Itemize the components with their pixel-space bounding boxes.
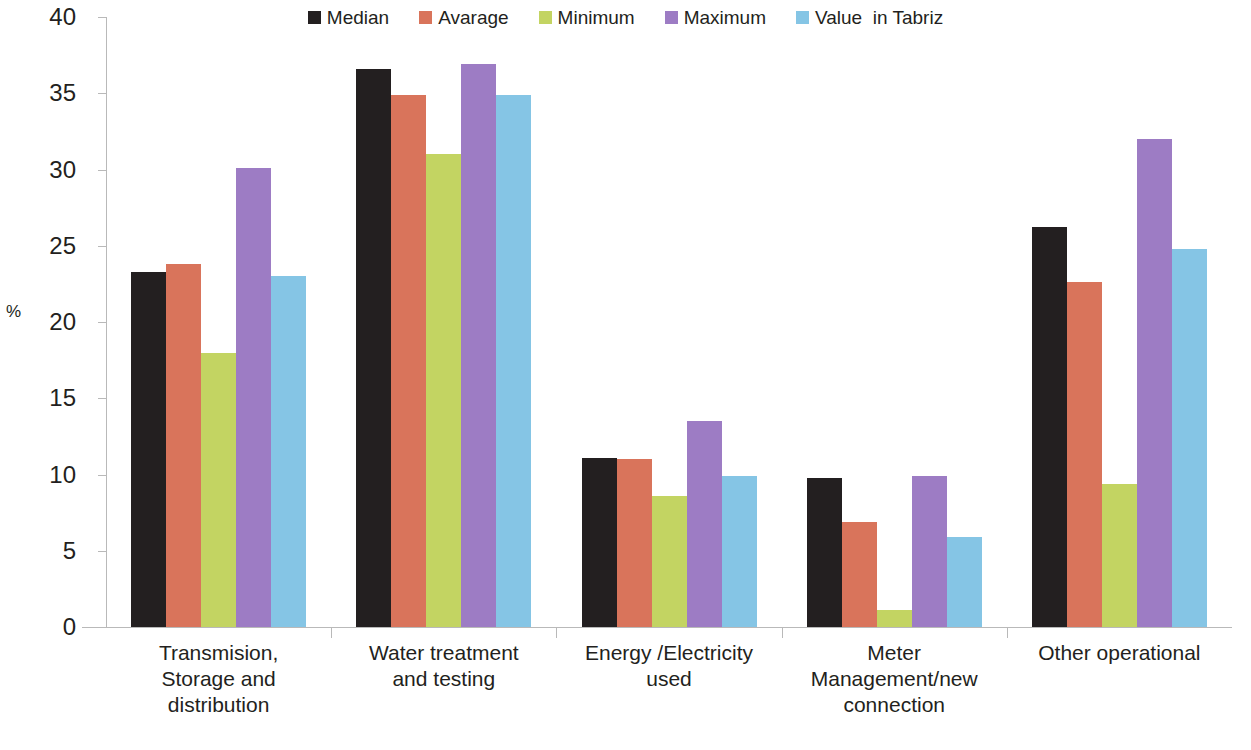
category-label-line: used bbox=[560, 666, 777, 692]
bar-slot bbox=[131, 17, 166, 627]
bar[interactable] bbox=[947, 537, 982, 627]
y-axis-tick bbox=[98, 322, 107, 323]
bar-slot bbox=[582, 17, 617, 627]
bar[interactable] bbox=[496, 95, 531, 627]
bar-group bbox=[782, 17, 1007, 627]
category-label-line: Water treatment bbox=[335, 640, 552, 666]
y-axis-tick bbox=[98, 170, 107, 171]
y-axis-tick bbox=[98, 17, 107, 18]
bar-slot bbox=[1102, 17, 1137, 627]
category-label-line: Other operational bbox=[1011, 640, 1228, 666]
bar-slot bbox=[1032, 17, 1067, 627]
y-axis-tick-label: 5 bbox=[16, 539, 76, 563]
bar-slot bbox=[426, 17, 461, 627]
bar-slot bbox=[1172, 17, 1207, 627]
bar-slot bbox=[236, 17, 271, 627]
bar[interactable] bbox=[1032, 227, 1067, 627]
x-axis-category-label: Energy /Electricityused bbox=[556, 640, 781, 718]
y-axis-tick-label: 0 bbox=[16, 615, 76, 639]
bar-slot bbox=[201, 17, 236, 627]
bar-group bbox=[331, 17, 556, 627]
bar-slot bbox=[912, 17, 947, 627]
bar-slot bbox=[496, 17, 531, 627]
x-axis-separator bbox=[782, 627, 783, 638]
y-axis-tick bbox=[98, 475, 107, 476]
bar[interactable] bbox=[722, 476, 757, 627]
bar[interactable] bbox=[461, 64, 496, 627]
category-label-line: distribution bbox=[110, 692, 327, 718]
bar-slot bbox=[461, 17, 496, 627]
bar-slot bbox=[842, 17, 877, 627]
bar-groups bbox=[106, 17, 1232, 627]
x-axis-category-label: Other operational bbox=[1007, 640, 1232, 718]
bar-slot bbox=[722, 17, 757, 627]
x-axis-separator bbox=[556, 627, 557, 638]
bar[interactable] bbox=[356, 69, 391, 627]
bar-chart: MedianAvarageMinimumMaximumValue in Tabr… bbox=[0, 0, 1251, 750]
bar[interactable] bbox=[426, 154, 461, 627]
x-axis-category-label: MeterManagement/newconnection bbox=[782, 640, 1007, 718]
x-axis-category-labels: Transmision,Storage anddistributionWater… bbox=[106, 640, 1232, 718]
y-axis-tick-labels: 4035302520151050 bbox=[16, 17, 76, 627]
bar[interactable] bbox=[271, 276, 306, 627]
x-axis-category-label: Transmision,Storage anddistribution bbox=[106, 640, 331, 718]
bar-slot bbox=[166, 17, 201, 627]
category-label-line: Meter bbox=[786, 640, 1003, 666]
bar-slot bbox=[947, 17, 982, 627]
bar-slot bbox=[652, 17, 687, 627]
bar-group bbox=[1007, 17, 1232, 627]
bar-slot bbox=[1137, 17, 1172, 627]
category-label-line: Storage and bbox=[110, 666, 327, 692]
bar[interactable] bbox=[131, 272, 166, 627]
y-axis-tick-label: 15 bbox=[16, 386, 76, 410]
bar-slot bbox=[356, 17, 391, 627]
x-axis-line bbox=[82, 627, 1232, 628]
y-axis-tick bbox=[98, 398, 107, 399]
y-axis-tick-label: 35 bbox=[16, 81, 76, 105]
bar-slot bbox=[391, 17, 426, 627]
bar-slot bbox=[877, 17, 912, 627]
bar[interactable] bbox=[912, 476, 947, 627]
x-axis-category-label: Water treatmentand testing bbox=[331, 640, 556, 718]
bar[interactable] bbox=[391, 95, 426, 627]
x-axis-separator bbox=[1007, 627, 1008, 638]
category-label-line: connection bbox=[786, 692, 1003, 718]
category-label-line: and testing bbox=[335, 666, 552, 692]
y-axis-tick-label: 20 bbox=[16, 310, 76, 334]
bar[interactable] bbox=[1102, 484, 1137, 627]
category-label-line: Transmision, bbox=[110, 640, 327, 666]
bar[interactable] bbox=[236, 168, 271, 627]
y-axis-tick bbox=[98, 246, 107, 247]
y-axis-tick-label: 10 bbox=[16, 463, 76, 487]
bar[interactable] bbox=[1137, 139, 1172, 627]
y-axis-tick bbox=[98, 627, 107, 628]
bar[interactable] bbox=[877, 610, 912, 627]
bar-slot bbox=[271, 17, 306, 627]
y-axis-tick bbox=[98, 93, 107, 94]
bar[interactable] bbox=[166, 264, 201, 627]
bar-slot bbox=[807, 17, 842, 627]
y-axis-tick-label: 40 bbox=[16, 5, 76, 29]
y-axis-tick bbox=[98, 551, 107, 552]
bar-slot bbox=[1067, 17, 1102, 627]
bar-slot bbox=[617, 17, 652, 627]
bar[interactable] bbox=[687, 421, 722, 627]
bar[interactable] bbox=[1172, 249, 1207, 627]
x-axis-separator bbox=[331, 627, 332, 638]
bar[interactable] bbox=[617, 459, 652, 627]
y-axis-tick-label: 30 bbox=[16, 158, 76, 182]
y-axis-tick-label: 25 bbox=[16, 234, 76, 258]
bar-group bbox=[556, 17, 781, 627]
category-label-line: Energy /Electricity bbox=[560, 640, 777, 666]
bar[interactable] bbox=[842, 522, 877, 627]
bar[interactable] bbox=[201, 353, 236, 628]
bar[interactable] bbox=[582, 458, 617, 627]
bar-group bbox=[106, 17, 331, 627]
bar[interactable] bbox=[652, 496, 687, 627]
bar[interactable] bbox=[1067, 282, 1102, 627]
category-label-line: Management/new bbox=[786, 666, 1003, 692]
bar[interactable] bbox=[807, 478, 842, 627]
bar-slot bbox=[687, 17, 722, 627]
